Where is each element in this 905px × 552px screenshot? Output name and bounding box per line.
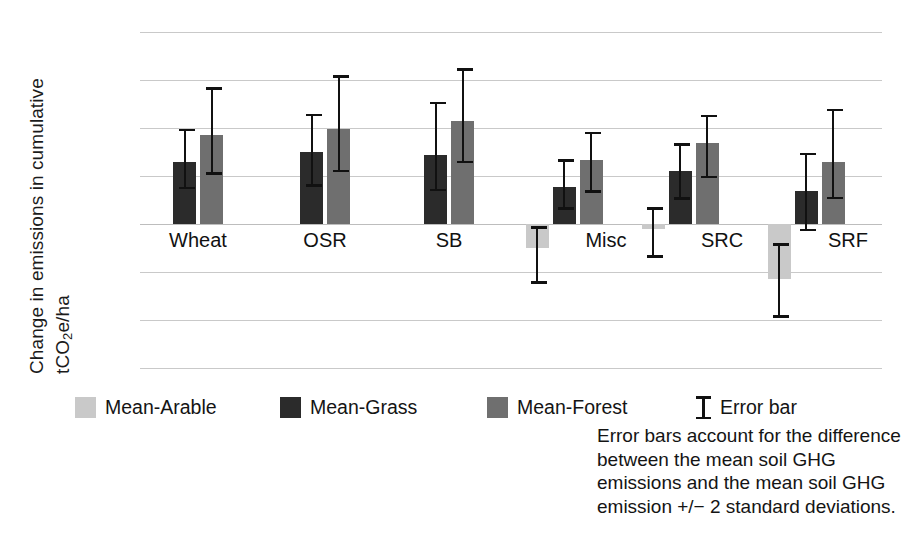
error-bar-cap-top — [800, 153, 816, 156]
error-bar-cap-bottom — [674, 197, 690, 200]
plot-area: 4003002001000−100−200−300WheatOSRSBMiscS… — [140, 32, 882, 368]
error-bar-cap-top — [558, 159, 574, 162]
error-bar-misc-mean-arable — [536, 226, 538, 284]
error-bar-cap-top — [206, 87, 222, 90]
error-bar-cap-bottom — [585, 190, 601, 193]
error-bar-wheat-mean-grass — [184, 129, 186, 189]
gridline — [140, 80, 882, 81]
square-swatch-icon — [487, 397, 508, 418]
error-bar-cap-bottom — [531, 281, 547, 284]
error-bar-sb-mean-forest — [462, 68, 464, 163]
error-bar-src-mean-grass — [679, 143, 681, 200]
error-bar-cap-bottom — [827, 197, 843, 200]
error-bar-caption: Error bars account for the differencebet… — [597, 424, 905, 518]
error-bar-osr-mean-forest — [338, 75, 340, 172]
error-bar-cap-top — [701, 115, 717, 118]
error-bar-cap-top — [585, 132, 601, 135]
square-swatch-icon — [75, 397, 96, 418]
error-bar-cap-bottom — [647, 255, 663, 258]
x-axis-category-label-src: SRC — [701, 229, 743, 252]
error-bar-osr-mean-grass — [311, 114, 313, 187]
x-axis-category-label-sb: SB — [436, 229, 463, 252]
caption-line: Error bars account for the difference — [597, 424, 905, 448]
y-axis-title-unit-post: e/ha — [52, 295, 73, 332]
error-bar-srf-mean-forest — [832, 109, 834, 199]
gridline — [140, 32, 882, 33]
error-bar-glyph-part — [696, 396, 711, 399]
chart-legend: Mean-ArableMean-GrassMean-ForestError ba… — [75, 396, 895, 426]
legend-item-label: Mean-Forest — [517, 396, 628, 419]
error-bar-icon — [695, 396, 711, 419]
gridline — [140, 368, 882, 369]
error-bar-cap-bottom — [333, 170, 349, 173]
x-axis-category-label-misc: Misc — [585, 229, 626, 252]
legend-item-label: Mean-Arable — [105, 396, 217, 419]
error-bar-cap-top — [827, 109, 843, 112]
square-swatch-icon — [280, 397, 301, 418]
x-axis-category-label-osr: OSR — [303, 229, 346, 252]
error-bar-cap-top — [457, 68, 473, 71]
caption-line: emissions and the mean soil GHG — [597, 471, 905, 495]
error-bar-cap-top — [531, 226, 547, 229]
x-axis-category-label-srf: SRF — [828, 229, 868, 252]
y-axis-title-line2: tCO2e/ha — [52, 295, 75, 374]
error-bar-cap-bottom — [430, 189, 446, 192]
y-axis-title: Change in emissions in cumulative tCO2e/… — [0, 0, 70, 390]
legend-item-mean-forest[interactable]: Mean-Forest — [487, 396, 628, 419]
error-bar-src-mean-arable — [652, 207, 654, 257]
x-axis-category-label-wheat: Wheat — [169, 229, 227, 252]
error-bar-cap-bottom — [773, 315, 789, 318]
error-bar-cap-bottom — [306, 184, 322, 187]
error-bar-cap-bottom — [701, 176, 717, 179]
error-bar-cap-bottom — [558, 207, 574, 210]
error-bar-sb-mean-grass — [435, 102, 437, 192]
error-bar-cap-bottom — [179, 187, 195, 190]
error-bar-cap-bottom — [457, 161, 473, 164]
y-axis-title-unit-pre: tCO — [52, 340, 73, 374]
caption-line: emission +/− 2 standard deviations. — [597, 495, 905, 519]
error-bar-cap-top — [306, 114, 322, 117]
gridline — [140, 176, 882, 177]
y-axis-title-line1: Change in emissions in cumulative — [26, 78, 48, 374]
error-bar-glyph-part — [696, 417, 711, 420]
legend-item-mean-grass[interactable]: Mean-Grass — [280, 396, 417, 419]
gridline — [140, 320, 882, 321]
error-bar-misc-mean-forest — [590, 132, 592, 193]
legend-item-mean-arable[interactable]: Mean-Arable — [75, 396, 217, 419]
y-axis-title-unit-sub: 2 — [60, 333, 75, 340]
gridline — [140, 128, 882, 129]
error-bar-cap-bottom — [800, 229, 816, 232]
error-bar-cap-top — [674, 143, 690, 146]
error-bar-srf-mean-arable — [778, 243, 780, 317]
legend-item-error-bar[interactable]: Error bar — [695, 396, 797, 419]
error-bar-cap-top — [333, 75, 349, 78]
error-bar-srf-mean-grass — [805, 153, 807, 231]
error-bar-cap-top — [773, 243, 789, 246]
error-bar-cap-top — [179, 129, 195, 132]
error-bar-cap-top — [430, 102, 446, 105]
error-bar-misc-mean-grass — [563, 159, 565, 209]
error-bar-src-mean-forest — [706, 115, 708, 179]
error-bar-wheat-mean-forest — [211, 87, 213, 174]
legend-item-label: Mean-Grass — [310, 396, 417, 419]
legend-item-label: Error bar — [720, 396, 797, 419]
error-bar-cap-top — [647, 207, 663, 210]
error-bar-cap-bottom — [206, 172, 222, 175]
caption-line: between the mean soil GHG — [597, 448, 905, 472]
